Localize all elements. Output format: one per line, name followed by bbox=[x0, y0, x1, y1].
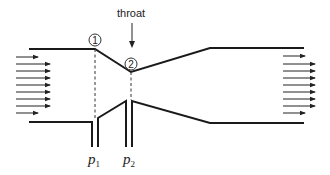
p2-label: p2 bbox=[122, 151, 135, 169]
svg-text:2: 2 bbox=[128, 59, 134, 70]
bottom-wall-converging bbox=[98, 101, 126, 146]
top-wall bbox=[30, 48, 303, 72]
outlet-flow-arrows bbox=[283, 56, 315, 113]
inlet-flow-arrows bbox=[16, 57, 50, 113]
section-1-marker: 1 bbox=[89, 34, 101, 46]
bottom-wall-inlet bbox=[30, 122, 92, 146]
svg-text:1: 1 bbox=[92, 35, 98, 46]
venturi-diagram: 1 2 throat p1 p2 bbox=[0, 0, 330, 175]
throat-arrowhead-icon bbox=[129, 41, 135, 48]
section-2-marker: 2 bbox=[125, 58, 137, 70]
bottom-wall-diverging bbox=[132, 101, 303, 146]
p1-label: p1 bbox=[87, 151, 100, 169]
throat-label: throat bbox=[117, 7, 145, 19]
